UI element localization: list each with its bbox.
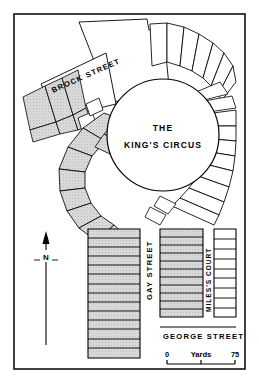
north-arrow-label: N xyxy=(43,253,49,262)
east-block xyxy=(214,229,236,317)
label-gay-street: GAY STREET xyxy=(145,240,154,300)
circus-title-line1: THE xyxy=(153,123,174,133)
map-figure: THE KING'S CIRCUS xyxy=(0,0,259,383)
west-terrace-block xyxy=(88,229,140,358)
kings-circus-circle xyxy=(107,79,219,191)
label-george-street: GEORGE STREET xyxy=(163,332,244,341)
scale-min-label: 0 xyxy=(165,350,169,359)
scale-max-label: 75 xyxy=(231,350,239,359)
mid-terrace-block xyxy=(160,229,203,317)
map-canvas: THE KING'S CIRCUS xyxy=(0,0,259,383)
label-miless-court: MILES'S COURT xyxy=(205,248,212,312)
scale-unit-label: Yards xyxy=(191,350,212,359)
circus-title-line2: KING'S CIRCUS xyxy=(124,140,202,150)
